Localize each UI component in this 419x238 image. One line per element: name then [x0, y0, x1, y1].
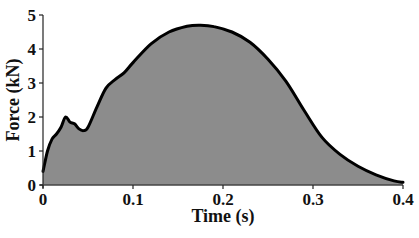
y-tick-label: 2	[28, 108, 37, 127]
force-time-chart: 012345 00.10.20.30.4 Time (s) Force (kN)	[0, 0, 419, 238]
x-tick-label: 0.1	[122, 190, 143, 209]
y-axis-ticks: 012345	[28, 6, 44, 195]
y-tick-label: 4	[28, 40, 37, 59]
x-axis-title: Time (s)	[191, 206, 254, 227]
x-tick-label: 0.4	[392, 190, 414, 209]
y-tick-label: 0	[28, 176, 37, 195]
y-axis-title: Force (kN)	[3, 58, 24, 141]
x-tick-label: 0.3	[302, 190, 323, 209]
y-tick-label: 5	[28, 6, 37, 25]
x-tick-label: 0	[39, 190, 48, 209]
y-tick-label: 3	[28, 74, 37, 93]
y-tick-label: 1	[28, 142, 37, 161]
